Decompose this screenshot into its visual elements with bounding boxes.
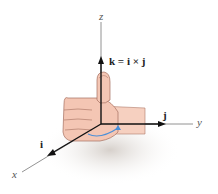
i-vector-label: i bbox=[40, 138, 43, 150]
hand-thumb bbox=[97, 72, 110, 103]
z-axis-label: z bbox=[99, 10, 103, 22]
diagram-graphics bbox=[0, 0, 218, 194]
k-equation-label: k = i × j bbox=[109, 55, 145, 67]
y-axis-label: y bbox=[197, 116, 202, 128]
x-axis-label: x bbox=[12, 168, 17, 180]
j-vector-label: j bbox=[163, 109, 167, 121]
j-vector-arrowhead bbox=[158, 121, 166, 127]
right-hand-rule-diagram: z y x k = i × j j i bbox=[0, 0, 218, 194]
k-vector-arrowhead bbox=[98, 56, 104, 64]
